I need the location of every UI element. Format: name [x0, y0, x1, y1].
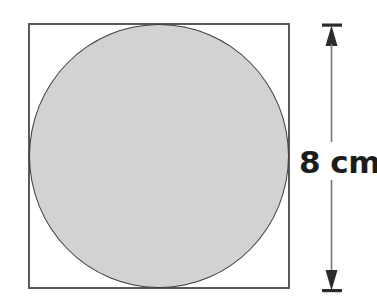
down-arrowhead-icon: [326, 270, 338, 291]
inscribed-circle-shape: [29, 24, 289, 288]
dimension-annotation: 8 cm: [296, 20, 377, 295]
geometry-figure-canvas: 8 cm: [0, 0, 377, 303]
extension-cap-top-icon: [322, 24, 342, 27]
up-arrowhead-icon: [326, 26, 338, 47]
dimension-label: 8 cm: [296, 144, 377, 180]
extension-cap-bottom-icon: [322, 289, 342, 292]
